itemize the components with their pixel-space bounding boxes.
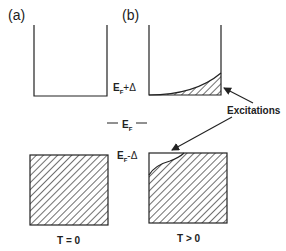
upper-band-with-excitations [149,25,221,95]
panel-b-label: (b) [122,7,139,23]
bcs-density-of-states-diagram: (a) (b) EF+Δ EF EF-Δ Excitations T = 0 T… [0,0,286,251]
upper-band-empty [34,25,107,96]
lower-band-with-holes [149,153,227,223]
ef-minus-delta-label: EF-Δ [117,150,138,163]
temperature-zero-label: T = 0 [57,235,81,246]
excitations-label: Excitations [227,105,281,116]
ef-plus-delta-label: EF+Δ [113,82,136,95]
ef-label: EF [122,119,133,132]
temperature-positive-label: T > 0 [177,233,201,244]
excitations-arrow-lower [172,117,232,150]
excitations-arrow-upper [224,88,253,103]
lower-band-filled [30,155,108,225]
excitation-hatched-region [149,73,221,95]
panel-a-label: (a) [8,7,25,23]
